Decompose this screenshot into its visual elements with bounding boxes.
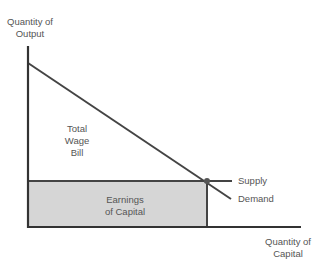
y-axis-label: Quantity of Output — [2, 16, 58, 40]
earnings-of-capital-label: Earnings of Capital — [85, 194, 165, 218]
x-axis-label-line: Quantity of — [258, 236, 317, 248]
region-label-line: Total — [52, 123, 102, 135]
x-axis-label: Quantity of Capital — [258, 236, 317, 260]
demand-label: Demand — [238, 193, 274, 205]
region-label-line: Wage — [52, 135, 102, 147]
supply-label: Supply — [238, 175, 267, 187]
equilibrium-point — [204, 178, 210, 184]
y-axis-label-line: Quantity of — [2, 16, 58, 28]
diagram-canvas — [0, 0, 317, 272]
total-wage-bill-label: Total Wage Bill — [52, 123, 102, 159]
region-label-line: of Capital — [85, 206, 165, 218]
x-axis-label-line: Capital — [258, 248, 317, 260]
y-axis-label-line: Output — [2, 28, 58, 40]
region-label-line: Bill — [52, 147, 102, 159]
region-label-line: Earnings — [85, 194, 165, 206]
